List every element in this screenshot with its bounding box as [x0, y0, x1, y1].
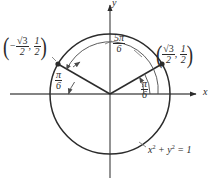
- coordinate-label-5pi-6: (− √3 2 , 1 2 ): [3, 36, 47, 57]
- left-point-leader: [52, 57, 56, 61]
- angle-fraction: π 6: [141, 79, 148, 100]
- y-denominator: 2: [180, 55, 187, 65]
- close-paren: ): [187, 42, 193, 68]
- angle-arc-ref-left: [69, 82, 75, 94]
- y-coordinate-fraction: 1 2: [180, 44, 187, 65]
- terminal-ray-pi-6: [110, 64, 162, 94]
- x-axis-label: x: [203, 87, 207, 97]
- angle-fraction: π 6: [55, 70, 62, 91]
- angle-label-leader-right: [134, 50, 142, 57]
- close-paren: ): [41, 34, 47, 60]
- angle-denominator: 6: [113, 44, 125, 54]
- x-coordinate-fraction: √3 2: [162, 44, 175, 65]
- y-denominator: 2: [34, 47, 41, 57]
- x-coordinate-fraction: √3 2: [16, 36, 29, 57]
- circle-equation-label: x2 + y2 = 1: [148, 144, 192, 155]
- terminal-ray-5pi-6: [58, 64, 110, 94]
- neg-sign: −: [9, 40, 16, 51]
- angle-denominator: 6: [141, 90, 148, 100]
- x-denominator: 2: [162, 55, 175, 65]
- open-paren: (: [156, 42, 162, 68]
- point-marker-5pi-6: [55, 61, 60, 66]
- angle-label-5pi-6: 5π 6: [113, 33, 125, 54]
- y-coordinate-fraction: 1 2: [34, 36, 41, 57]
- reference-angle-label-left: π 6: [55, 70, 62, 91]
- coordinate-label-pi-6: ( √3 2 , 1 2 ): [156, 44, 193, 65]
- equation-rhs: 1: [187, 144, 192, 155]
- ref-left-pointer: [73, 62, 80, 67]
- angle-fraction: 5π 6: [113, 33, 125, 54]
- reference-angle-label-right: π 6: [141, 79, 148, 100]
- open-paren: (: [3, 34, 9, 60]
- y-axis-label: y: [112, 0, 116, 8]
- angle-denominator: 6: [55, 81, 62, 91]
- unit-circle-figure: (− √3 2 , 1 2 ) ( √3 2 , 1 2 ) 5π 6 π: [0, 0, 220, 182]
- x-denominator: 2: [16, 47, 29, 57]
- equation-plus-sign: +: [158, 144, 165, 155]
